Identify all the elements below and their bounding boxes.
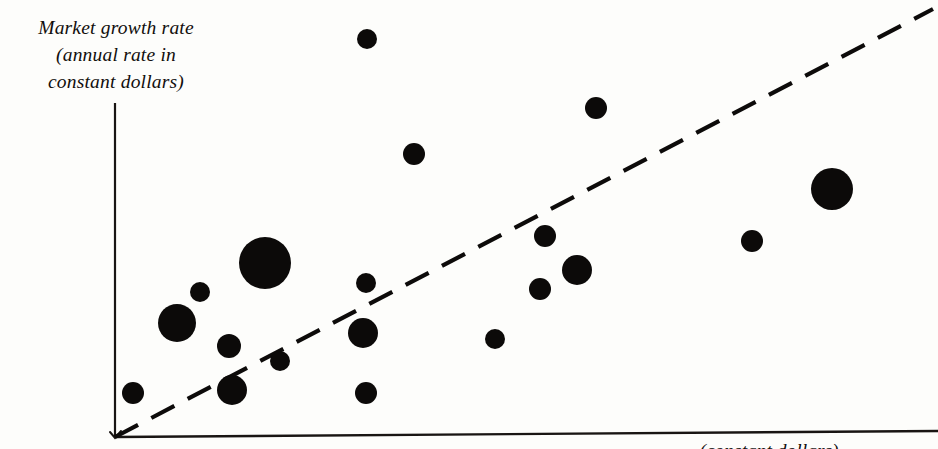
- plot-area: [0, 0, 938, 449]
- data-point-bubble: [270, 351, 290, 371]
- data-point-bubble: [190, 282, 210, 302]
- data-point-bubble: [217, 334, 241, 358]
- data-point-bubble: [357, 29, 377, 49]
- bubble-chart-figure: Market growth rate (annual rate in const…: [0, 0, 938, 449]
- data-point-bubble: [158, 304, 196, 342]
- trend-line: [115, 9, 933, 437]
- data-point-bubble: [403, 143, 425, 165]
- bubble-series: [122, 29, 853, 405]
- x-axis-label: (constant dollars): [600, 437, 938, 449]
- data-point-bubble: [562, 255, 592, 285]
- data-point-bubble: [585, 97, 607, 119]
- data-point-bubble: [529, 278, 551, 300]
- data-point-bubble: [811, 168, 853, 210]
- data-point-bubble: [356, 273, 376, 293]
- data-point-bubble: [239, 237, 291, 289]
- data-point-bubble: [534, 225, 556, 247]
- data-point-bubble: [122, 382, 144, 404]
- data-point-bubble: [485, 329, 505, 349]
- data-point-bubble: [355, 382, 377, 404]
- data-point-bubble: [217, 375, 247, 405]
- data-point-bubble: [348, 318, 378, 348]
- data-point-bubble: [741, 230, 763, 252]
